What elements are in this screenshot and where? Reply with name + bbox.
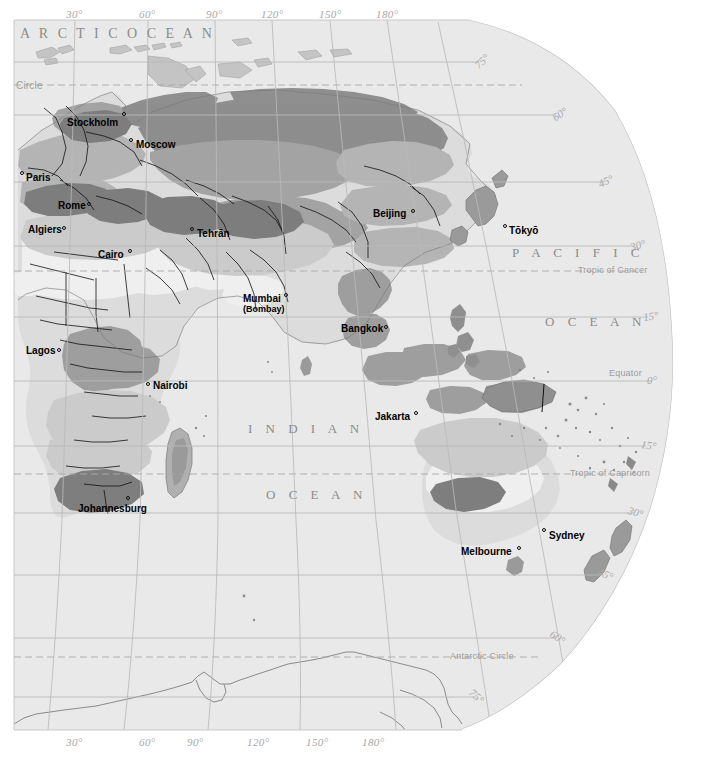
- bottom-lon-label: 90°: [187, 736, 204, 748]
- world-climate-map: 30° 60° 90° 120° 150° 180° 30° 60° 90° 1…: [0, 0, 707, 773]
- tropic-of-capricorn-label: Tropic of Capricorn: [570, 468, 650, 478]
- top-lon-label: 120°: [261, 8, 284, 20]
- city-tehran[interactable]: Tehrān: [197, 228, 230, 239]
- city-dot-lagos: [57, 348, 61, 352]
- city-label-alt: (Bombay): [243, 304, 285, 314]
- lat-label: 15°: [640, 438, 657, 452]
- lat-label: 0°: [647, 374, 657, 386]
- city-label: Moscow: [136, 139, 175, 150]
- bottom-lon-label: 60°: [139, 736, 156, 748]
- city-stockholm[interactable]: Stockholm: [67, 117, 118, 128]
- ocean-label-pacific-line2: O C E A N: [545, 314, 646, 330]
- arctic-circle-label: Circle: [16, 80, 43, 91]
- city-label: Tōkyō: [509, 225, 538, 236]
- city-paris[interactable]: Paris: [26, 172, 50, 183]
- city-label: Cairo: [98, 249, 124, 260]
- city-dot-nairobi: [146, 382, 150, 386]
- city-dot-tehran: [190, 227, 194, 231]
- city-sydney[interactable]: Sydney: [549, 530, 585, 541]
- city-label: Beijing: [373, 208, 406, 219]
- city-moscow[interactable]: Moscow: [136, 139, 175, 150]
- city-lagos[interactable]: Lagos: [26, 345, 55, 356]
- city-label: Melbourne: [461, 546, 512, 557]
- map-canvas: [0, 0, 707, 773]
- city-dot-jakarta: [414, 411, 418, 415]
- city-dot-moscow: [129, 138, 133, 142]
- city-mumbai[interactable]: Mumbai (Bombay): [243, 293, 285, 314]
- city-label: Jakarta: [375, 411, 410, 422]
- city-beijing[interactable]: Beijing: [373, 208, 406, 219]
- city-dot-rome: [87, 202, 91, 206]
- city-label: Tehrān: [197, 228, 230, 239]
- city-johannesburg[interactable]: Johannesburg: [78, 503, 147, 514]
- top-lon-label: 90°: [206, 8, 223, 20]
- city-dot-beijing: [411, 209, 415, 213]
- ocean-label-indian-line1: I N D I A N: [248, 421, 364, 437]
- city-dot-bangkok: [384, 325, 388, 329]
- city-algiers[interactable]: Algiers: [28, 224, 62, 235]
- city-rome[interactable]: Rome: [58, 200, 86, 211]
- city-dot-melbourne: [517, 546, 521, 550]
- top-lon-label: 180°: [376, 8, 399, 20]
- city-label: Rome: [58, 200, 86, 211]
- city-jakarta[interactable]: Jakarta: [375, 411, 410, 422]
- city-bangkok[interactable]: Bangkok: [341, 323, 383, 334]
- bottom-lon-label: 180°: [362, 736, 385, 748]
- city-dot-algiers: [62, 226, 66, 230]
- bottom-lon-label: 150°: [306, 736, 329, 748]
- city-dot-tokyo: [503, 224, 507, 228]
- top-lon-label: 30°: [66, 8, 83, 20]
- city-cairo[interactable]: Cairo: [98, 249, 124, 260]
- city-label: Algiers: [28, 224, 62, 235]
- city-dot-mumbai: [284, 293, 288, 297]
- city-dot-cairo: [128, 249, 132, 253]
- city-label: Stockholm: [67, 117, 118, 128]
- city-label: Lagos: [26, 345, 55, 356]
- city-dot-johannesburg: [126, 496, 130, 500]
- ocean-label-arctic: A R C T I C O C E A N: [20, 26, 215, 42]
- city-label: Sydney: [549, 530, 585, 541]
- city-label: Paris: [26, 172, 50, 183]
- city-dot-stockholm: [122, 112, 126, 116]
- city-dot-paris: [20, 171, 24, 175]
- city-nairobi[interactable]: Nairobi: [153, 380, 187, 391]
- city-label: Johannesburg: [78, 503, 147, 514]
- ocean-label-pacific-line1: P A C I F I C: [512, 245, 644, 261]
- top-lon-label: 60°: [139, 8, 156, 20]
- equator-label: Equator: [609, 368, 642, 378]
- ocean-label-indian-line2: O C E A N: [266, 487, 367, 503]
- city-label: Bangkok: [341, 323, 383, 334]
- city-label: Nairobi: [153, 380, 187, 391]
- city-dot-sydney: [542, 528, 546, 532]
- city-tokyo[interactable]: Tōkyō: [509, 225, 538, 236]
- map-body: [0, 0, 707, 773]
- city-label: Mumbai: [243, 293, 285, 304]
- bottom-lon-label: 30°: [66, 736, 83, 748]
- bottom-lon-label: 120°: [247, 736, 270, 748]
- antarctic-circle-label: Antarctic Circle: [450, 651, 514, 661]
- tropic-of-cancer-label: Tropic of Cancer: [578, 265, 647, 275]
- city-melbourne[interactable]: Melbourne: [461, 546, 512, 557]
- top-lon-label: 150°: [319, 8, 342, 20]
